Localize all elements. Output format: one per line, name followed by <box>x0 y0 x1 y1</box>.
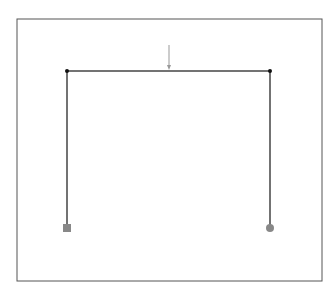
pinned-support-icon <box>266 224 274 232</box>
joint-top-right <box>268 69 272 73</box>
portal-frame-diagram <box>0 0 336 296</box>
joint-top-left <box>65 69 69 73</box>
point-load-arrow-icon <box>167 45 171 70</box>
frame-members <box>67 71 270 228</box>
supports <box>63 224 274 232</box>
fixed-support-icon <box>63 224 71 232</box>
